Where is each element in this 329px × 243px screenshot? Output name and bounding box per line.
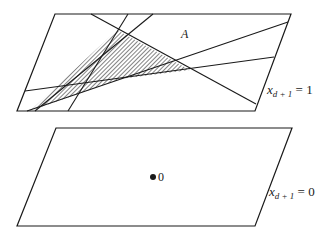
lower-plane-label-eq: = 0	[294, 184, 314, 199]
upper-plane-label: xd + 1 = 1	[267, 83, 313, 99]
upper-plane-label-eq: = 1	[292, 82, 312, 97]
origin-label: 0	[158, 171, 164, 183]
line-4	[27, 22, 288, 111]
lower-plane-label-sub: d + 1	[275, 191, 295, 201]
origin-point	[150, 174, 156, 180]
diagram-canvas	[0, 0, 329, 243]
lower-plane-label: xd + 1 = 0	[269, 185, 315, 201]
upper-plane-label-sub: d + 1	[273, 89, 293, 99]
region-label: A	[181, 28, 188, 40]
